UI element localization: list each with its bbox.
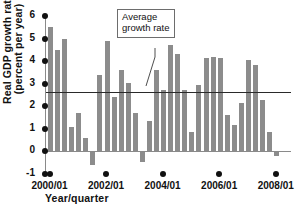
bar bbox=[161, 90, 166, 151]
y-axis-tick-label: 5 bbox=[13, 32, 35, 43]
x-axis-tick-marker bbox=[160, 171, 166, 177]
x-axis-tick-marker bbox=[273, 171, 279, 177]
bar bbox=[253, 65, 258, 152]
bar bbox=[147, 121, 152, 151]
y-axis-tick-label: -1 bbox=[13, 167, 35, 178]
x-axis-tick-label: 2002/01 bbox=[78, 180, 134, 191]
y-axis-tick-label: 2 bbox=[13, 99, 35, 110]
bar bbox=[246, 60, 251, 151]
bar bbox=[239, 103, 244, 152]
plot-area bbox=[45, 16, 290, 174]
bar bbox=[225, 115, 230, 151]
y-axis-tick-label: 0 bbox=[13, 144, 35, 155]
bar bbox=[154, 70, 159, 151]
bar bbox=[133, 113, 138, 151]
bar bbox=[267, 132, 272, 151]
bar bbox=[83, 138, 88, 152]
bar bbox=[232, 125, 237, 151]
y-axis-tick-label: 4 bbox=[13, 54, 35, 65]
bar bbox=[69, 127, 74, 152]
bar bbox=[55, 50, 60, 152]
average-growth-rate-annotation: Average growth rate bbox=[117, 9, 175, 38]
x-axis-tick-label: 2006/01 bbox=[191, 180, 247, 191]
bar bbox=[126, 83, 131, 152]
bar bbox=[112, 97, 117, 151]
bar bbox=[189, 132, 194, 151]
x-axis-tick-label: 2008/01 bbox=[248, 180, 296, 191]
bar bbox=[140, 151, 145, 161]
bar bbox=[175, 54, 180, 151]
bar bbox=[76, 113, 81, 151]
bar bbox=[260, 100, 265, 152]
y-axis-tick-label: 1 bbox=[13, 122, 35, 133]
bar bbox=[168, 45, 173, 151]
bar bbox=[119, 70, 124, 151]
bar bbox=[90, 151, 95, 165]
x-axis-tick-marker bbox=[47, 171, 53, 177]
y-axis-tick-label: 3 bbox=[13, 77, 35, 88]
bar bbox=[105, 41, 110, 152]
bar bbox=[196, 85, 201, 152]
bar bbox=[97, 75, 102, 152]
zero-baseline bbox=[46, 151, 291, 152]
y-axis-tick-marker bbox=[42, 36, 48, 42]
bar bbox=[218, 58, 223, 152]
bar bbox=[211, 57, 216, 152]
bar-series bbox=[46, 16, 290, 174]
x-axis-tick-label: 2004/01 bbox=[135, 180, 191, 191]
y-axis-tick-marker bbox=[42, 13, 48, 19]
gdp-growth-bar-chart: Real GDP growth rate (percent per year) … bbox=[0, 0, 296, 211]
bar bbox=[204, 58, 209, 152]
bar bbox=[48, 27, 53, 151]
y-axis-tick-marker bbox=[42, 126, 48, 132]
x-axis-tick-marker bbox=[216, 171, 222, 177]
y-axis-tick-label: 6 bbox=[13, 9, 35, 20]
bar bbox=[182, 90, 187, 151]
annotation-line-2: growth rate bbox=[122, 23, 170, 34]
bar bbox=[62, 39, 67, 152]
x-axis-tick-label: 2000/01 bbox=[22, 180, 78, 191]
x-axis-title: Year/quarter bbox=[45, 192, 109, 204]
x-axis-tick-marker bbox=[103, 171, 109, 177]
average-growth-rate-line bbox=[46, 92, 291, 93]
y-axis-tick-marker bbox=[42, 81, 48, 87]
